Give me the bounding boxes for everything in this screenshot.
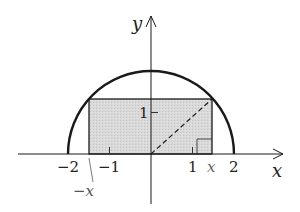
neg-x-leader — [89, 158, 93, 182]
rect-right-x-label: x — [207, 158, 216, 176]
y-axis-label: y — [131, 13, 143, 34]
x-tick-label-neg2: −2 — [57, 158, 79, 176]
diagram-canvas: −2 −1 1 2 1 x −x x y — [0, 0, 300, 212]
x-tick-label-1: 1 — [188, 158, 198, 176]
x-tick-label-neg1: −1 — [98, 158, 120, 176]
semicircle-rectangle-diagram: −2 −1 1 2 1 x −x x y — [0, 0, 300, 212]
rect-left-neg-x-label: −x — [73, 182, 95, 200]
y-tick-label-1: 1 — [139, 104, 149, 122]
x-tick-label-2: 2 — [229, 158, 239, 176]
x-axis-label: x — [272, 160, 282, 181]
